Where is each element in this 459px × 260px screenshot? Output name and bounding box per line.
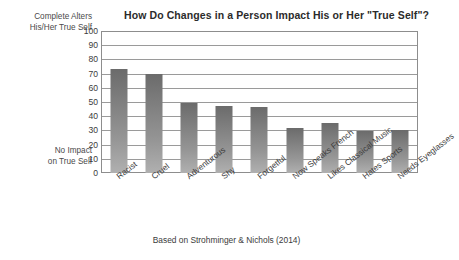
bar[interactable] [216,106,233,173]
y-tick-label: 60 [70,84,98,93]
y-tick-label: 100 [70,27,98,36]
x-tick-label: Forgetful [256,174,289,183]
x-tick-label: Shy [220,174,234,183]
bar-slot [171,31,206,173]
axis-note-top-line1: Complete Alters [6,12,92,23]
x-tick-label: Cruel [150,174,170,183]
bar[interactable] [145,74,162,173]
x-axis-labels: RacistCruelAdventurousShyForgetfulNow Sp… [101,174,418,232]
y-tick-label: 20 [70,140,98,149]
bar[interactable] [251,107,268,173]
y-axis-ticks: 1009080706050403020100 [70,31,98,173]
bar-slot [136,31,171,173]
bar-slot [277,31,312,173]
x-tick-label: Needs Eyeglasses [396,174,459,183]
y-tick-label: 80 [70,55,98,64]
bar[interactable] [110,69,127,173]
bar[interactable] [181,103,198,173]
source-caption: Based on Strohminger & Nichols (2014) [0,235,453,245]
chart-title: How Do Changes in a Person Impact His or… [100,9,453,21]
x-tick-label: Racist [115,174,138,183]
y-tick-label: 70 [70,69,98,78]
y-tick-label: 90 [70,41,98,50]
y-tick-label: 30 [70,126,98,135]
y-tick-label: 50 [70,98,98,107]
y-tick-label: 40 [70,112,98,121]
bar-slot [242,31,277,173]
y-tick-label: 10 [70,155,98,164]
bar-slot [101,31,136,173]
bar-series [101,31,418,173]
y-tick-label: 0 [70,169,98,178]
